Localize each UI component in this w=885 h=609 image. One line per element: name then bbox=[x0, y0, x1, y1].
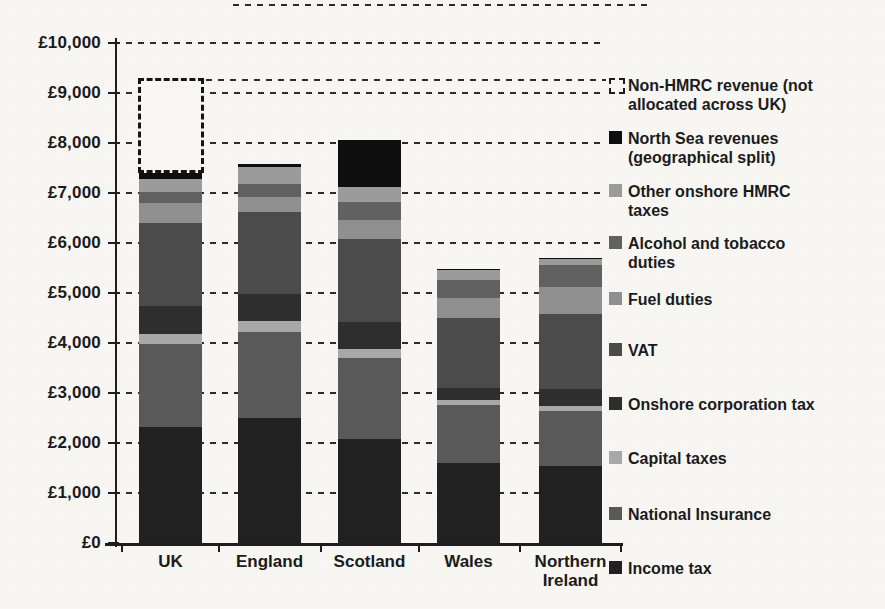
legend-swatch-non-hmrc-revenue-not bbox=[609, 78, 625, 94]
legend-swatch-national-insurance bbox=[609, 507, 622, 520]
y-tick-mark-2000 bbox=[108, 442, 119, 444]
y-tick-label-8000: £8,000 bbox=[1, 133, 101, 153]
x-category-label-england: England bbox=[215, 552, 325, 571]
y-tick-mark-10000 bbox=[108, 42, 119, 44]
scanned-stacked-bar-chart: £10,000£9,000£8,000£7,000£6,000£5,000£4,… bbox=[0, 0, 885, 609]
top-edge-scan-artifact-dashed-line bbox=[233, 4, 648, 6]
y-tick-mark-9000 bbox=[108, 92, 119, 94]
bar-segment-scotland-other-onshore-hmrc-taxes bbox=[338, 187, 401, 202]
bar-segment-uk-onshore-corporation-tax bbox=[139, 306, 202, 334]
legend-swatch-onshore-corporation-tax bbox=[609, 397, 622, 410]
bar-segment-northern-ireland-north-sea-revenues-geographical-split bbox=[539, 258, 602, 259]
y-tick-label-9000: £9,000 bbox=[1, 83, 101, 103]
y-tick-label-6000: £6,000 bbox=[1, 233, 101, 253]
bar-segment-uk-capital-taxes bbox=[139, 334, 202, 345]
legend-swatch-alcohol-and-tobacco bbox=[609, 236, 622, 249]
legend-label: Alcohol and tobaccoduties bbox=[628, 234, 880, 272]
bar-segment-wales-onshore-corporation-tax bbox=[437, 388, 500, 400]
bar-segment-scotland-fuel-duties bbox=[338, 220, 401, 239]
legend-label-line: Fuel duties bbox=[628, 290, 880, 309]
bar-segment-uk-fuel-duties bbox=[139, 203, 202, 223]
bar-segment-england-north-sea-revenues-geographical-split bbox=[238, 164, 301, 167]
y-tick-mark-4000 bbox=[108, 342, 119, 344]
legend-swatch-other-onshore-hmrc bbox=[609, 184, 622, 197]
y-tick-mark-6000 bbox=[108, 242, 119, 244]
legend-label-line: Income tax bbox=[628, 559, 880, 578]
legend-label-line: duties bbox=[628, 253, 880, 272]
overlay-dashed-box-uk bbox=[138, 78, 204, 173]
legend-swatch-capital-taxes bbox=[609, 451, 622, 464]
legend-label-line: Capital taxes bbox=[628, 449, 880, 468]
gridline-10000 bbox=[114, 42, 606, 44]
legend-label-line: VAT bbox=[628, 341, 880, 360]
bar-segment-wales-alcohol-and-tobacco-duties bbox=[437, 280, 500, 298]
legend-label-line: taxes bbox=[628, 201, 880, 220]
legend-swatch-income-tax bbox=[609, 561, 622, 574]
bar-segment-scotland-north-sea-revenues-geographical-split bbox=[338, 140, 401, 188]
legend-label: Non-HMRC revenue (notallocated across UK… bbox=[628, 76, 880, 114]
y-tick-mark-7000 bbox=[108, 192, 119, 194]
x-category-label-line: Scotland bbox=[315, 552, 425, 571]
legend-label-line: Alcohol and tobacco bbox=[628, 234, 880, 253]
bar-segment-england-capital-taxes bbox=[238, 321, 301, 333]
bar-segment-northern-ireland-other-onshore-hmrc-taxes bbox=[539, 258, 602, 265]
bar-segment-northern-ireland-income-tax bbox=[539, 466, 602, 543]
y-tick-label-4000: £4,000 bbox=[1, 333, 101, 353]
y-axis-line bbox=[115, 38, 117, 547]
y-tick-label-0: £0 bbox=[1, 533, 101, 553]
bar-segment-northern-ireland-fuel-duties bbox=[539, 287, 602, 315]
x-axis-line bbox=[105, 543, 623, 546]
bar-segment-wales-vat bbox=[437, 318, 500, 389]
bar-segment-northern-ireland-alcohol-and-tobacco-duties bbox=[539, 265, 602, 287]
bar-segment-wales-capital-taxes bbox=[437, 400, 500, 405]
bar-segment-wales-national-insurance bbox=[437, 405, 500, 464]
bar-segment-uk-other-onshore-hmrc-taxes bbox=[139, 179, 202, 192]
legend-swatch-north-sea-revenues bbox=[609, 131, 622, 144]
legend-swatch-fuel-duties bbox=[609, 292, 622, 305]
y-tick-label-5000: £5,000 bbox=[1, 283, 101, 303]
bar-segment-northern-ireland-national-insurance bbox=[539, 411, 602, 466]
y-tick-label-7000: £7,000 bbox=[1, 183, 101, 203]
y-tick-mark-3000 bbox=[108, 392, 119, 394]
bar-segment-england-alcohol-and-tobacco-duties bbox=[238, 184, 301, 198]
bar-segment-scotland-national-insurance bbox=[338, 358, 401, 440]
x-category-label-line: Wales bbox=[414, 552, 524, 571]
bar-segment-wales-income-tax bbox=[437, 463, 500, 543]
legend-label-line: Non-HMRC revenue (not bbox=[628, 76, 880, 95]
legend-label: Fuel duties bbox=[628, 290, 880, 309]
bar-segment-scotland-vat bbox=[338, 239, 401, 323]
legend-label: Other onshore HMRCtaxes bbox=[628, 182, 880, 220]
legend-label-line: Other onshore HMRC bbox=[628, 182, 880, 201]
bar-segment-england-fuel-duties bbox=[238, 197, 301, 212]
bar-segment-wales-north-sea-revenues-geographical-split bbox=[437, 269, 500, 270]
bar-segment-northern-ireland-onshore-corporation-tax bbox=[539, 389, 602, 406]
legend-label: Income tax bbox=[628, 559, 880, 578]
legend-label: Capital taxes bbox=[628, 449, 880, 468]
y-tick-label-3000: £3,000 bbox=[1, 383, 101, 403]
bar-segment-england-vat bbox=[238, 212, 301, 294]
x-category-label-wales: Wales bbox=[414, 552, 524, 571]
bar-segment-england-national-insurance bbox=[238, 332, 301, 418]
bar-segment-scotland-capital-taxes bbox=[338, 349, 401, 358]
legend-label: VAT bbox=[628, 341, 880, 360]
bar-segment-england-income-tax bbox=[238, 418, 301, 543]
bar-segment-wales-fuel-duties bbox=[437, 298, 500, 318]
x-category-label-uk: UK bbox=[116, 552, 226, 571]
legend-label: National Insurance bbox=[628, 505, 880, 524]
y-tick-label-10000: £10,000 bbox=[1, 33, 101, 53]
bar-segment-wales-other-onshore-hmrc-taxes bbox=[437, 270, 500, 280]
legend-label: Onshore corporation tax bbox=[628, 395, 880, 414]
bar-segment-england-other-onshore-hmrc-taxes bbox=[238, 167, 301, 184]
legend-label: North Sea revenues(geographical split) bbox=[628, 129, 880, 167]
y-tick-mark-1000 bbox=[108, 492, 119, 494]
bar-segment-england-onshore-corporation-tax bbox=[238, 294, 301, 321]
overlay-leader-line-uk bbox=[206, 79, 606, 81]
x-category-label-scotland: Scotland bbox=[315, 552, 425, 571]
bar-segment-uk-income-tax bbox=[139, 427, 202, 543]
x-category-label-line: UK bbox=[116, 552, 226, 571]
bar-segment-uk-national-insurance bbox=[139, 344, 202, 427]
legend-swatch-vat bbox=[609, 343, 622, 356]
bar-segment-uk-alcohol-and-tobacco-duties bbox=[139, 192, 202, 204]
legend-label-line: North Sea revenues bbox=[628, 129, 880, 148]
legend-label-line: (geographical split) bbox=[628, 148, 880, 167]
